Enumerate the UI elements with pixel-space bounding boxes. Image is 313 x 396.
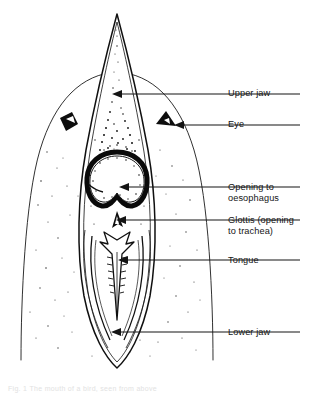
mouth-anatomy-figure: Upper jaw Eye Opening to oesophagus Glot…: [0, 0, 313, 396]
label-tongue: Tongue: [228, 255, 259, 266]
label-eye: Eye: [228, 119, 244, 130]
label-upper-jaw: Upper jaw: [228, 88, 270, 99]
figure-caption: Fig. 1 The mouth of a bird, seen from ab…: [8, 385, 157, 392]
label-opening-to-oesophagus: Opening to oesophagus: [228, 182, 279, 204]
label-glottis: Glottis (opening to trachea): [228, 215, 294, 237]
label-lower-jaw: Lower jaw: [228, 327, 270, 338]
